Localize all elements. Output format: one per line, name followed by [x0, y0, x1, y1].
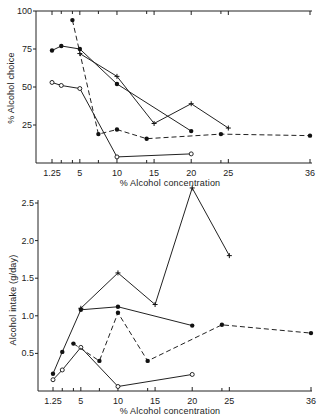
- filled-circle-marker: [51, 372, 55, 376]
- series-filled-circle-dashed: [70, 18, 312, 141]
- series-line: [73, 313, 311, 361]
- series-line: [52, 82, 191, 156]
- x-axis-label: % Alcohol concentration: [120, 178, 221, 188]
- filled-circle-marker: [115, 127, 119, 131]
- y-axis-label: Alcohol intake (g/day): [8, 255, 18, 346]
- y-tick-label: 100: [17, 6, 32, 16]
- x-tick-label: 10: [112, 168, 122, 178]
- series-plus-solid: [78, 185, 231, 310]
- x-tick-label: 10: [113, 396, 123, 406]
- x-tick-label: 36: [306, 396, 316, 406]
- y-tick-label: 0.5: [21, 348, 34, 358]
- filled-circle-marker: [79, 308, 83, 312]
- series-filled-circle-solid: [50, 44, 194, 134]
- filled-circle-marker: [96, 132, 100, 136]
- open-circle-marker: [115, 155, 119, 159]
- open-circle-marker: [59, 83, 63, 87]
- x-tick-label: 15: [150, 396, 160, 406]
- plus-marker: [226, 126, 231, 131]
- series-line: [53, 307, 192, 374]
- x-tick-label: 20: [187, 396, 197, 406]
- open-circle-marker: [60, 368, 64, 372]
- series-line: [80, 54, 228, 128]
- open-circle-marker: [116, 384, 120, 388]
- chart-panel-1: 2550751001.2551015202536% Alcohol concen…: [6, 6, 315, 188]
- x-axis-label: % Alcohol concentration: [120, 406, 221, 416]
- axes: [36, 11, 312, 163]
- series-filled-circle-dashed: [71, 311, 313, 364]
- series-line: [72, 20, 310, 139]
- axes: [38, 200, 312, 391]
- x-tick-label: 5: [78, 396, 83, 406]
- filled-circle-marker: [71, 341, 75, 345]
- filled-circle-marker: [309, 331, 313, 335]
- x-tick-label: 1.25: [43, 168, 61, 178]
- y-tick-label: 2.5: [21, 198, 34, 208]
- filled-circle-marker: [115, 82, 119, 86]
- filled-circle-marker: [308, 133, 312, 137]
- open-circle-marker: [51, 378, 55, 382]
- open-circle-marker: [50, 80, 54, 84]
- filled-circle-marker: [219, 132, 223, 136]
- y-tick-label: 2.0: [21, 236, 34, 246]
- open-circle-marker: [78, 87, 82, 91]
- filled-circle-marker: [70, 18, 74, 22]
- filled-circle-marker: [59, 44, 63, 48]
- y-tick-label: 25: [22, 120, 32, 130]
- series-filled-circle-solid: [51, 305, 195, 376]
- plus-marker: [227, 253, 232, 258]
- x-tick-label: 15: [149, 168, 159, 178]
- y-tick-label: 1.5: [21, 273, 34, 283]
- series-line: [81, 188, 229, 308]
- filled-circle-marker: [145, 359, 149, 363]
- series-line: [53, 347, 192, 386]
- x-tick-label: 5: [77, 168, 82, 178]
- series-open-circle-solid: [50, 80, 193, 158]
- filled-circle-marker: [50, 48, 54, 52]
- filled-circle-marker: [97, 359, 101, 363]
- figure: 2550751001.2551015202536% Alcohol concen…: [0, 0, 324, 419]
- filled-circle-marker: [189, 129, 193, 133]
- open-circle-marker: [189, 152, 193, 156]
- y-tick-label: 50: [22, 82, 32, 92]
- chart-panel-2: 0.51.01.52.02.51.2551015202536% Alcohol …: [8, 185, 316, 416]
- filled-circle-marker: [60, 350, 64, 354]
- filled-circle-marker: [116, 311, 120, 315]
- plus-marker: [189, 101, 194, 106]
- x-tick-label: 1.25: [44, 396, 62, 406]
- filled-circle-marker: [220, 323, 224, 327]
- open-circle-marker: [190, 372, 194, 376]
- series-plus-solid: [77, 51, 230, 130]
- x-tick-label: 20: [186, 168, 196, 178]
- y-tick-label: 75: [22, 44, 32, 54]
- x-tick-label: 25: [223, 168, 233, 178]
- filled-circle-marker: [144, 136, 148, 140]
- x-tick-label: 36: [305, 168, 315, 178]
- series-open-circle-solid: [51, 345, 194, 388]
- x-tick-label: 25: [224, 396, 234, 406]
- filled-circle-marker: [190, 323, 194, 327]
- y-axis-label: % Alcohol choice: [6, 52, 16, 123]
- filled-circle-marker: [116, 305, 120, 309]
- y-tick-label: 1.0: [21, 311, 34, 321]
- series-line: [52, 46, 191, 131]
